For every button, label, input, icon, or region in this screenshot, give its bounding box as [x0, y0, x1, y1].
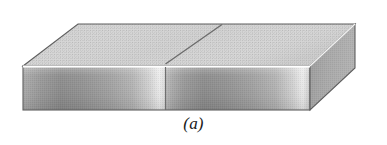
top-face: [23, 24, 355, 66]
figure-container: (a): [0, 0, 387, 145]
figure-caption: (a): [0, 113, 387, 135]
front-face: [23, 66, 310, 110]
